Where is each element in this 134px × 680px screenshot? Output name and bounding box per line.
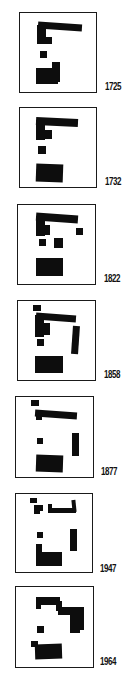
site-plan-1858 bbox=[17, 300, 96, 381]
building-south bbox=[35, 356, 63, 373]
building-west-square bbox=[37, 438, 43, 444]
building-east-block-lower bbox=[70, 621, 80, 633]
building-north-small bbox=[31, 400, 39, 406]
building-west-square bbox=[37, 626, 44, 633]
building-south bbox=[36, 258, 63, 276]
year-label: 1964 bbox=[100, 656, 116, 667]
site-plan-1947 bbox=[15, 493, 93, 573]
building-south-west bbox=[36, 544, 42, 559]
site-plan-1877 bbox=[15, 396, 94, 478]
building-northwest-annex bbox=[35, 323, 50, 335]
building-small-square bbox=[38, 146, 46, 154]
building-small-square bbox=[40, 51, 47, 58]
year-label: 1858 bbox=[104, 369, 120, 380]
building-center-square bbox=[54, 238, 63, 248]
year-label: 1877 bbox=[101, 466, 117, 477]
year-label: 1947 bbox=[100, 563, 116, 574]
building-north-wing-end bbox=[36, 410, 42, 420]
year-label: 1822 bbox=[104, 273, 120, 284]
building-north-wing-stub bbox=[71, 500, 76, 512]
building-south-east bbox=[52, 62, 60, 82]
building-south bbox=[36, 455, 64, 473]
site-plan-1964 bbox=[15, 586, 94, 668]
building-west-square bbox=[39, 239, 46, 246]
building-north-block-drop bbox=[36, 601, 41, 609]
year-label: 1725 bbox=[105, 81, 121, 92]
building-northwest-annex bbox=[37, 37, 52, 44]
site-plan-1725 bbox=[19, 12, 97, 93]
building-east-wing bbox=[71, 326, 80, 354]
building-east-wing bbox=[72, 433, 79, 456]
building-northwest-annex bbox=[36, 130, 52, 139]
building-south bbox=[36, 164, 64, 183]
site-plan-1822 bbox=[17, 204, 96, 285]
building-east-square bbox=[76, 228, 83, 235]
building-northwest-annex bbox=[36, 225, 50, 235]
building-west-square bbox=[37, 339, 44, 346]
site-plan-1732 bbox=[19, 107, 97, 188]
building-west-square bbox=[37, 532, 43, 538]
year-label: 1732 bbox=[105, 176, 121, 187]
building-north-small bbox=[30, 498, 37, 503]
building-south bbox=[35, 644, 63, 660]
building-northwest-pair-lower bbox=[34, 509, 40, 514]
building-north-small bbox=[33, 305, 41, 311]
building-east-wing bbox=[70, 529, 77, 551]
building-north-wing-stub-west bbox=[48, 504, 52, 512]
